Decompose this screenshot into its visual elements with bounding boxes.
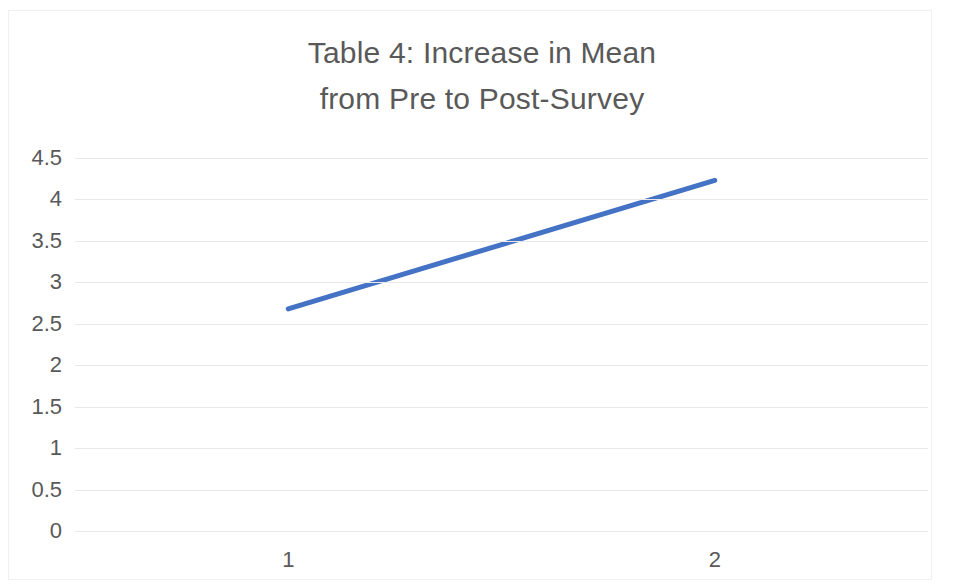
y-tick-label: 1	[50, 437, 62, 459]
plot-area	[75, 158, 928, 531]
gridline	[75, 448, 928, 449]
x-tick-label: 2	[709, 548, 721, 572]
y-tick-label: 4.5	[31, 147, 62, 169]
y-tick-label: 1.5	[31, 396, 62, 418]
gridline	[75, 531, 928, 532]
chart-container: Table 4: Increase in Mean from Pre to Po…	[0, 0, 964, 588]
y-tick-label: 3	[50, 271, 62, 293]
gridline	[75, 324, 928, 325]
y-tick-label: 2	[50, 354, 62, 376]
chart-title: Table 4: Increase in Mean from Pre to Po…	[0, 30, 964, 122]
gridline	[75, 199, 928, 200]
gridline	[75, 241, 928, 242]
y-axis: 4.543.532.521.510.50	[0, 0, 75, 588]
x-tick-label: 1	[282, 548, 294, 572]
y-tick-label: 0.5	[31, 479, 62, 501]
y-tick-label: 4	[50, 188, 62, 210]
x-axis: 12	[75, 548, 928, 582]
y-tick-label: 3.5	[31, 230, 62, 252]
y-tick-label: 0	[50, 520, 62, 542]
y-tick-label: 2.5	[31, 313, 62, 335]
gridline	[75, 490, 928, 491]
gridline	[75, 158, 928, 159]
series-line-mean	[75, 158, 928, 531]
gridline	[75, 282, 928, 283]
gridline	[75, 365, 928, 366]
gridline	[75, 407, 928, 408]
